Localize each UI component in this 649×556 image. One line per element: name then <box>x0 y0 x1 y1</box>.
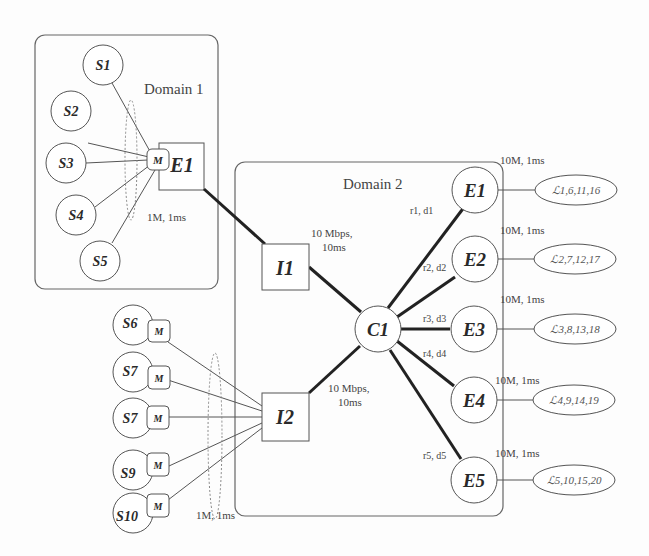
domain1-sources <box>46 45 123 281</box>
network-topology-diagram: Domain 1 Domain 2 S1 S2 S3 S4 S5 E1 M 1M… <box>0 0 649 556</box>
source-label-s7b: S7 <box>123 411 139 426</box>
i1-link-label-line1: 10 Mbps, <box>311 227 353 239</box>
egress-router-e2-label: E2 <box>463 249 487 270</box>
marker-label-s10: M <box>153 501 164 512</box>
source-label-s5: S5 <box>93 254 108 269</box>
marker-label-s7a: M <box>154 373 165 384</box>
marker-label-s7b: M <box>153 413 164 424</box>
sink-label-e3: ℒ3,8,13,18 <box>550 323 600 335</box>
external-access-link-label: 1M, 1ms <box>196 509 235 521</box>
out-link-label-e4: 10M, 1ms <box>495 374 540 386</box>
core-link-label-e4: r4, d4 <box>423 348 446 359</box>
source-label-s6: S6 <box>123 316 138 331</box>
marker-label-s6: M <box>154 326 165 337</box>
out-link-label-e3: 10M, 1ms <box>500 293 545 305</box>
egress-router-e3-label: E3 <box>462 319 485 340</box>
source-label-s7a: S7 <box>123 364 139 379</box>
domain1-marker-label: M <box>152 154 164 166</box>
domain1-access-link-label: 1M, 1ms <box>147 211 186 223</box>
source-label-s1: S1 <box>96 58 111 73</box>
external-access-links <box>168 342 262 500</box>
out-link-label-e2: 10M, 1ms <box>500 224 545 236</box>
sink-ellipses <box>533 175 617 495</box>
ingress-router-i2-label: I2 <box>275 406 294 428</box>
core-link-label-e3: r3, d3 <box>423 313 446 324</box>
core-link-label-e1: r1, d1 <box>410 205 433 216</box>
source-label-s2: S2 <box>64 104 79 119</box>
egress-router-e1-label: E1 <box>463 180 486 201</box>
domain1-access-links <box>86 83 155 243</box>
core-router-c1-label: C1 <box>367 319 389 340</box>
egress-router-e4-label: E4 <box>462 390 485 411</box>
ingress-router-i1-label: I1 <box>275 257 294 279</box>
sink-label-e2: ℒ2,7,12,17 <box>550 253 600 265</box>
out-link-label-e1: 10M, 1ms <box>500 154 545 166</box>
core-link-label-e2: r2, d2 <box>423 262 446 273</box>
source-label-s3: S3 <box>59 156 74 171</box>
out-link-label-e5: 10M, 1ms <box>495 447 540 459</box>
domain1-edge-router-label: E1 <box>169 154 193 176</box>
domain2-label: Domain 2 <box>343 176 403 192</box>
egress-router-e5-label: E5 <box>462 470 486 491</box>
sink-label-e5: ℒ5,10,15,20 <box>547 474 602 486</box>
sink-label-e4: ℒ4,9,14,19 <box>549 394 599 406</box>
i2-link-label-line1: 10 Mbps, <box>328 382 370 394</box>
source-label-s9: S9 <box>121 466 136 481</box>
i1-link-label-line2: 10ms <box>322 241 346 253</box>
domain1-label: Domain 1 <box>144 81 204 97</box>
external-aggregation-ellipse <box>208 353 222 519</box>
core-link-label-e5: r5, d5 <box>423 450 446 461</box>
source-label-s10: S10 <box>116 509 138 524</box>
source-label-s4: S4 <box>69 208 84 223</box>
sink-label-e1: ℒ1,6,11,16 <box>552 184 601 196</box>
i2-link-label-line2: 10ms <box>338 396 362 408</box>
marker-label-s9: M <box>153 460 164 471</box>
